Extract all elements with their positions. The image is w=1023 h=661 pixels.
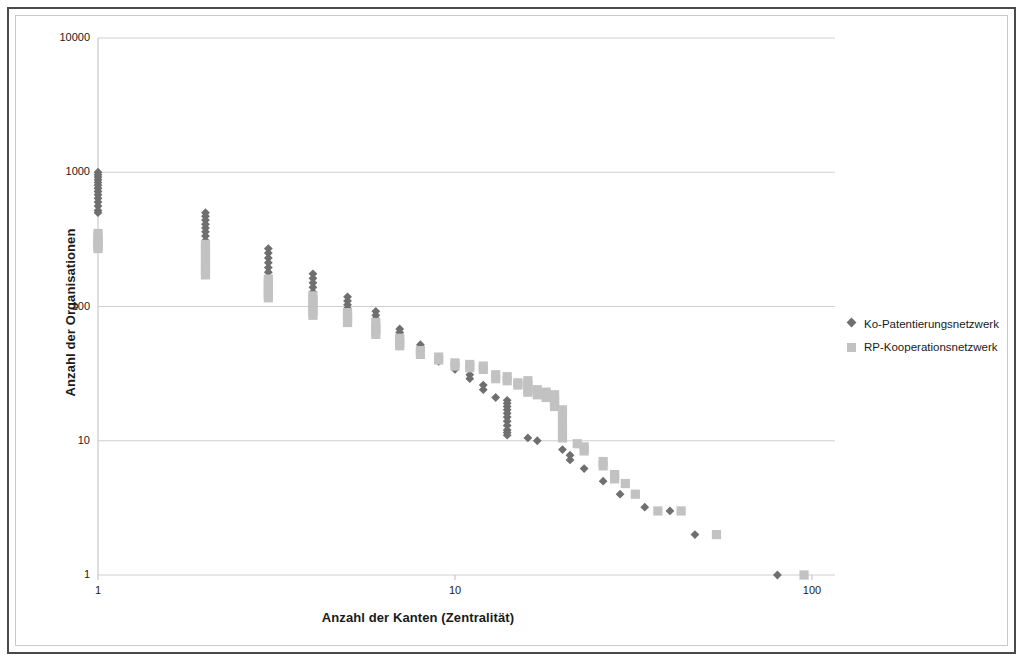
legend-diamond-icon <box>846 318 858 330</box>
data-point-square <box>479 365 488 374</box>
data-point-square <box>542 393 551 402</box>
y-axis-title: Anzahl der Organisationen <box>63 123 78 503</box>
data-point-square <box>308 311 317 320</box>
data-point-square <box>599 461 608 470</box>
scatter-chart: 110100100010000110100 Anzahl der Kanten … <box>0 0 1023 661</box>
y-tick-label: 10 <box>16 434 90 446</box>
data-point-square <box>416 350 425 359</box>
data-point-square <box>264 293 273 302</box>
x-tick-label: 10 <box>425 584 485 596</box>
data-point-square <box>621 479 630 488</box>
data-point-diamond <box>491 393 500 402</box>
data-point-diamond <box>666 507 675 516</box>
data-point-diamond <box>640 503 649 512</box>
x-axis-title: Anzahl der Kanten (Zentralität) <box>0 610 836 625</box>
legend-item-2[interactable]: RP-Kooperationsnetzwerk <box>846 336 1014 357</box>
data-point-square <box>465 363 474 372</box>
data-point-square <box>677 506 686 515</box>
data-point-square <box>371 330 380 339</box>
data-point-square <box>513 380 522 389</box>
data-point-square <box>550 402 559 411</box>
data-point-diamond <box>566 456 575 465</box>
x-tick-label: 1 <box>68 584 128 596</box>
data-point-diamond <box>691 530 700 539</box>
y-tick-label: 100 <box>16 300 90 312</box>
data-point-square <box>503 376 512 385</box>
data-point-diamond <box>580 464 589 473</box>
data-point-square <box>201 270 210 279</box>
series-1-markers <box>94 168 782 580</box>
series-2-markers <box>93 229 808 580</box>
data-point-square <box>558 413 567 422</box>
data-point-square <box>93 244 102 253</box>
data-point-square <box>580 446 589 455</box>
legend-item-label: RP-Kooperationsnetzwerk <box>864 341 998 353</box>
legend-item-1[interactable]: Ko-Patentierungsnetzwerk <box>846 313 1014 334</box>
chart-legend: Ko-PatentierungsnetzwerkRP-Kooperationsn… <box>846 313 1014 359</box>
data-point-diamond <box>599 477 608 486</box>
data-point-square <box>712 530 721 539</box>
y-tick-label: 10000 <box>16 31 90 43</box>
data-point-diamond <box>479 385 488 394</box>
data-point-square <box>653 506 662 515</box>
data-point-square <box>523 388 532 397</box>
chart-page: 110100100010000110100 Anzahl der Kanten … <box>0 0 1023 661</box>
data-point-square <box>610 474 619 483</box>
data-point-diamond <box>773 571 782 580</box>
data-point-diamond <box>533 436 542 445</box>
y-tick-label: 1000 <box>16 165 90 177</box>
data-point-square <box>343 318 352 327</box>
data-point-square <box>491 374 500 383</box>
data-point-square <box>395 341 404 350</box>
data-point-square <box>533 390 542 399</box>
data-point-square <box>450 361 459 370</box>
y-tick-label: 1 <box>16 568 90 580</box>
data-point-diamond <box>558 445 567 454</box>
x-tick-label: 100 <box>782 584 842 596</box>
data-point-square <box>434 355 443 364</box>
legend-item-label: Ko-Patentierungsnetzwerk <box>864 318 999 330</box>
data-point-square <box>631 490 640 499</box>
legend-square-icon <box>846 341 858 353</box>
data-point-square <box>799 570 808 579</box>
data-point-diamond <box>616 490 625 499</box>
data-point-square <box>558 433 567 442</box>
